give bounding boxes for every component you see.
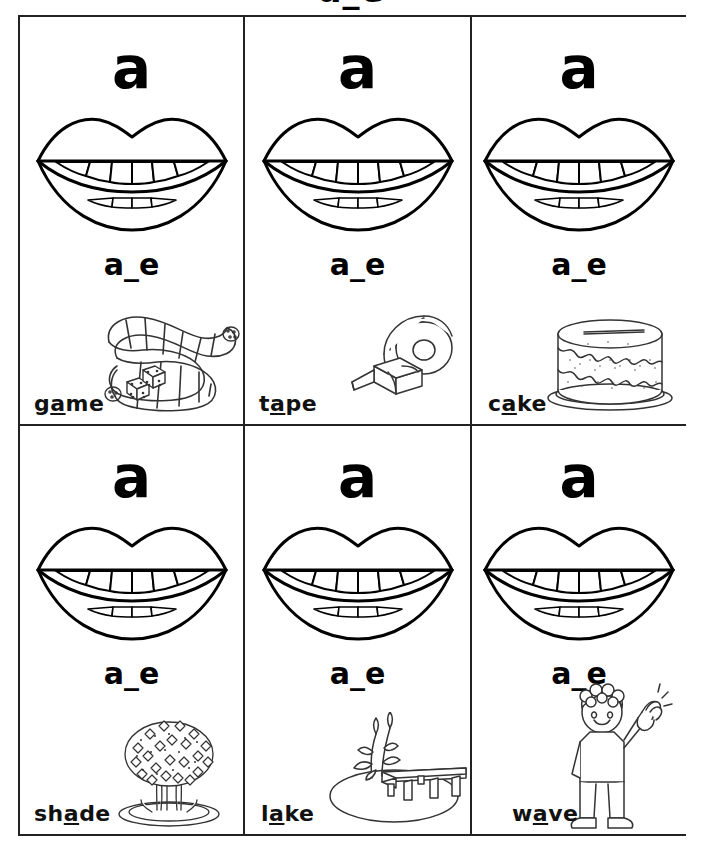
card-cake[interactable]: a (472, 17, 686, 426)
word-part-before: c (488, 391, 502, 416)
word-label: tape (259, 391, 317, 416)
word-part-vowel: a (269, 801, 284, 826)
card-shade[interactable]: a (20, 426, 245, 835)
word-part-vowel: a (270, 391, 285, 416)
card-tape[interactable]: a (245, 17, 472, 426)
worksheet-title-text: a_e (0, 0, 703, 10)
vowel-letter: a (472, 39, 686, 97)
word-label: wave (512, 801, 578, 826)
picture-tree (97, 712, 239, 830)
word-part-before: sh (34, 801, 64, 826)
vowel-letter: a (20, 448, 243, 506)
word-part-before: t (259, 391, 270, 416)
word-label: game (34, 391, 104, 416)
word-part-after: ke (517, 391, 547, 416)
word-part-before: l (261, 801, 269, 826)
vowel-letter: a (245, 39, 470, 97)
spelling-pattern: a_e (245, 656, 470, 691)
word-part-after: pe (285, 391, 317, 416)
word-part-after: me (66, 391, 105, 416)
word-part-vowel: a (50, 391, 65, 416)
mouth-illustration (245, 101, 470, 237)
worksheet-grid: a (18, 15, 686, 836)
word-label: lake (261, 801, 314, 826)
word-part-after: ve (548, 801, 578, 826)
card-wave[interactable]: a (472, 426, 686, 835)
mouth-illustration (472, 510, 686, 646)
word-part-after: de (79, 801, 111, 826)
vowel-letter: a (245, 448, 470, 506)
word-label: cake (488, 391, 547, 416)
spelling-pattern: a_e (245, 247, 470, 282)
mouth-illustration (20, 101, 243, 237)
vowel-letter: a (472, 448, 686, 506)
word-part-vowel: a (502, 391, 517, 416)
picture-lake-dock-reeds (320, 712, 468, 830)
picture-snake-and-dice (91, 308, 243, 418)
vowel-letter: a (20, 39, 243, 97)
spelling-pattern: a_e (472, 247, 686, 282)
mouth-illustration (20, 510, 243, 646)
word-part-vowel: a (64, 801, 79, 826)
mouth-illustration (472, 101, 686, 237)
word-part-before: w (512, 801, 533, 826)
picture-cake (540, 308, 680, 416)
word-part-vowel: a (533, 801, 548, 826)
spelling-pattern: a_e (20, 656, 243, 691)
spelling-pattern: a_e (20, 247, 243, 282)
word-part-before: g (34, 391, 50, 416)
word-part-after: ke (284, 801, 314, 826)
card-lake[interactable]: a (245, 426, 472, 835)
card-game[interactable]: a (20, 17, 245, 426)
word-label: shade (34, 801, 111, 826)
worksheet-title-cropped: a_e (0, 0, 703, 14)
mouth-illustration (245, 510, 470, 646)
picture-tape-dispenser (326, 310, 466, 410)
